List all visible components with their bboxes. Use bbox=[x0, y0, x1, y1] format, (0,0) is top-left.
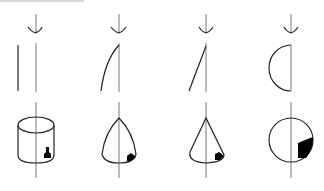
column-cone bbox=[189, 14, 224, 178]
column-cylinder bbox=[18, 14, 54, 178]
diagram-canvas bbox=[0, 0, 324, 191]
generator-curve bbox=[101, 45, 119, 91]
column-sphere bbox=[269, 14, 313, 178]
column-curved-cone bbox=[101, 14, 136, 178]
rotation-arrow-icon bbox=[284, 14, 298, 34]
rotation-arrow-icon bbox=[199, 14, 213, 34]
cone-solid bbox=[190, 118, 224, 163]
rotation-arrow-icon bbox=[111, 14, 126, 34]
generator-semicircle bbox=[269, 45, 291, 91]
rotation-arrow-icon bbox=[28, 14, 42, 34]
generator-line bbox=[189, 46, 206, 91]
